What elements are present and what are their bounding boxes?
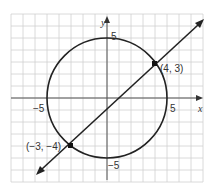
- y-tick-neg5: −5: [108, 160, 120, 171]
- y-axis-label: y: [100, 17, 106, 28]
- x-tick-neg5: −5: [33, 103, 45, 114]
- point-label-4-3: (4, 3): [160, 63, 183, 74]
- coordinate-plane: y x 5 −5 −5 5 (4, 3) (−3, −4): [0, 0, 212, 192]
- x-tick-5: 5: [170, 103, 176, 114]
- point-4-3: [152, 61, 157, 66]
- point-neg3-neg4: [68, 143, 73, 148]
- x-axis-label: x: [197, 103, 203, 114]
- line-curve: [42, 25, 198, 169]
- point-label-neg3-neg4: (−3, −4): [26, 141, 61, 152]
- x-axis-arrow-icon: [196, 95, 203, 101]
- y-tick-5: 5: [111, 31, 117, 42]
